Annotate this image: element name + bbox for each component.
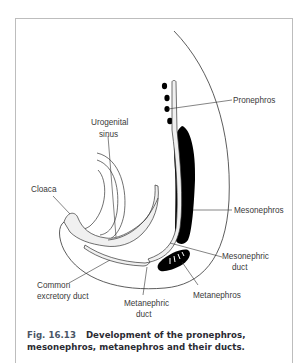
label-metanephros: Metanephros [193,291,241,300]
figure-caption: Fig. 16.13Development of the pronephros,… [27,329,297,353]
label-cloaca: Cloaca [31,185,57,194]
figure-title-line2: mesonephros, metanephros and their ducts… [27,341,297,353]
label-urogenital-sinus-2: sinus [99,130,118,139]
body-wall-outline [60,31,230,289]
pronephros-tubule [162,83,167,90]
pronephros-tubule [164,95,169,102]
figure-number: Fig. 16.13 [27,330,76,340]
label-mesonephric-duct-2: duct [232,263,248,272]
urogenital-sinus-region [64,185,158,247]
leader-metanephric-duct [143,267,147,295]
label-common-excretory-duct: Common [37,281,71,290]
label-metanephric-duct: Metanephric [124,299,169,308]
label-pronephros: Pronephros [233,96,275,105]
label-urogenital-sinus: Urogenital [91,118,129,127]
leader-pronephros [168,100,232,109]
hindgut-inner [76,170,105,229]
figure-title-line1: Development of the pronephros, [86,330,246,340]
label-mesonephric-duct: Mesonephric [222,252,269,261]
leader-urogenital-sinus [108,136,116,237]
label-common-excretory-duct-2: excretory duct [37,292,89,301]
common-excretory-duct [84,245,150,266]
leader-common-excretory-duct [69,260,110,283]
label-metanephric-duct-2: duct [136,310,152,319]
leader-cloaca [53,196,70,214]
label-mesonephros: Mesonephros [234,206,284,215]
